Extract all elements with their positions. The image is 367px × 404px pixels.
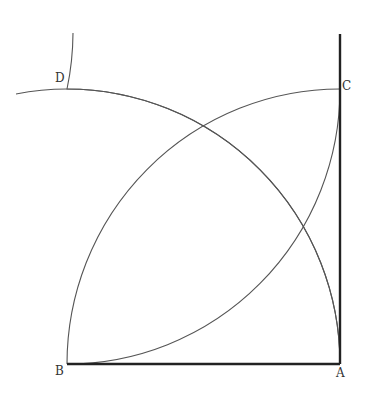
- label-b: B: [55, 364, 64, 378]
- label-d: D: [55, 71, 65, 85]
- label-a: A: [335, 366, 345, 380]
- label-c: C: [342, 79, 351, 93]
- geometry-diagram: A B C D: [0, 0, 367, 404]
- arc-centered-c: [67, 33, 340, 364]
- arc-centered-b: [16, 89, 340, 364]
- arc-centered-d: [67, 89, 340, 364]
- arc-centered-a: [67, 89, 340, 364]
